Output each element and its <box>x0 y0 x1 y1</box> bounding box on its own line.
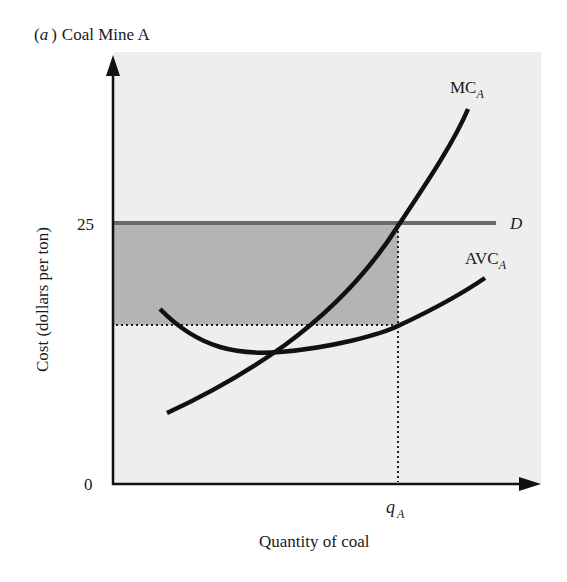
chart-title: (a)Coal Mine A <box>34 25 150 44</box>
chart-figure: (a)Coal Mine A 25 0 qA Quantity of coal … <box>0 0 567 582</box>
y-axis-title: Cost (dollars per ton) <box>33 227 52 372</box>
y-tick-25: 25 <box>77 215 94 234</box>
origin-label: 0 <box>84 475 93 494</box>
x-tick-qa: qA <box>386 497 405 521</box>
shaded-surplus-area <box>114 223 398 325</box>
demand-label: D <box>509 214 523 233</box>
x-axis-title: Quantity of coal <box>259 532 370 551</box>
